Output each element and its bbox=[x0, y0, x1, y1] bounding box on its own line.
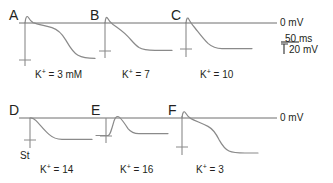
condition-value-b: 7 bbox=[144, 69, 150, 80]
panel-letter-e: E bbox=[91, 103, 100, 117]
condition-superscript-e: + bbox=[127, 163, 131, 170]
condition-superscript-c: + bbox=[207, 68, 211, 75]
condition-ion-b: K bbox=[122, 69, 129, 80]
panel-letter-a: A bbox=[9, 8, 18, 22]
trace-E bbox=[96, 117, 168, 136]
scale-bar-voltage-label: 20 mV bbox=[289, 45, 318, 55]
condition-ion-c: K bbox=[200, 69, 207, 80]
condition-superscript-f: + bbox=[203, 163, 207, 170]
panel-letter-b: B bbox=[90, 8, 99, 22]
figure-container: A B C D E F K+ = 3 mM K+ = 7 K+ = 10 K+ … bbox=[0, 0, 333, 183]
condition-label-f: K+ = 3 bbox=[196, 165, 224, 175]
condition-value-d: 14 bbox=[62, 164, 73, 175]
scale-bar-time-label: 50 ms bbox=[285, 34, 312, 44]
condition-value-a: 3 mM bbox=[57, 69, 82, 80]
condition-label-d: K+ = 14 bbox=[40, 165, 73, 175]
zero-mv-label-row-2: 0 mV bbox=[280, 113, 303, 123]
zero-mv-label-row-1: 0 mV bbox=[280, 18, 303, 28]
panel-letter-d: D bbox=[9, 103, 19, 117]
condition-value-e: 16 bbox=[142, 164, 153, 175]
condition-superscript-b: + bbox=[129, 68, 133, 75]
condition-value-c: 10 bbox=[222, 69, 233, 80]
condition-ion-a: K bbox=[35, 69, 42, 80]
condition-ion-d: K bbox=[40, 164, 47, 175]
trace-D bbox=[30, 118, 92, 139]
condition-label-a: K+ = 3 mM bbox=[35, 70, 82, 80]
condition-label-b: K+ = 7 bbox=[122, 70, 150, 80]
stimulus-marker-label: St bbox=[20, 151, 29, 161]
condition-value-f: 3 bbox=[218, 164, 224, 175]
trace-B bbox=[105, 17, 172, 50]
panel-letter-f: F bbox=[168, 103, 177, 117]
condition-superscript-d: + bbox=[47, 163, 51, 170]
condition-ion-f: K bbox=[196, 164, 203, 175]
condition-label-e: K+ = 16 bbox=[120, 165, 153, 175]
condition-label-c: K+ = 10 bbox=[200, 70, 233, 80]
panel-letter-c: C bbox=[171, 8, 181, 22]
condition-superscript-a: + bbox=[42, 68, 46, 75]
condition-ion-e: K bbox=[120, 164, 127, 175]
